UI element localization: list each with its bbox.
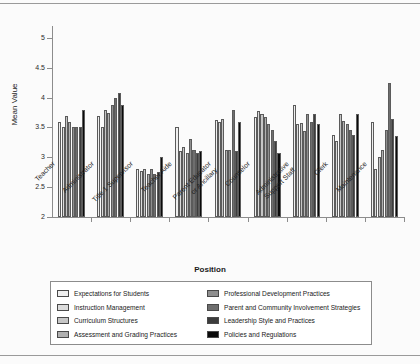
- legend-item: Curriculum Structures: [57, 314, 177, 327]
- legend-label: Instruction Management: [74, 304, 145, 311]
- legend-label: Assessment and Grading Practices: [74, 331, 177, 338]
- bar: [82, 110, 85, 217]
- y-tick: [47, 38, 52, 39]
- y-tick: [47, 187, 52, 188]
- y-tick: [47, 157, 52, 158]
- x-tick: [208, 217, 209, 222]
- legend-column-left: Expectations for StudentsInstruction Man…: [57, 287, 177, 341]
- top-divider: [0, 3, 420, 4]
- x-axis-title: Position: [0, 265, 420, 274]
- x-tick: [365, 217, 366, 222]
- y-tick-label: 4: [0, 94, 45, 102]
- legend-label: Professional Development Practices: [224, 290, 330, 297]
- bottom-divider: [0, 355, 420, 356]
- y-tick: [47, 127, 52, 128]
- legend-item: Expectations for Students: [57, 287, 177, 300]
- legend-swatch: [207, 290, 219, 297]
- legend-item: Instruction Management: [57, 301, 177, 314]
- legend-label: Parent and Community Involvement Strateg…: [224, 304, 360, 311]
- legend-swatch: [57, 317, 69, 324]
- legend-swatch: [207, 304, 219, 311]
- x-tick: [326, 217, 327, 222]
- legend-column-right: Professional Development PracticesParent…: [207, 287, 360, 341]
- y-tick: [47, 217, 52, 218]
- y-axis-line: [52, 26, 53, 218]
- legend-label: Leadership Style and Practices: [224, 317, 315, 324]
- y-tick-label: 5: [0, 34, 45, 42]
- legend-label: Expectations for Students: [74, 290, 149, 297]
- legend-swatch: [57, 290, 69, 297]
- y-tick: [47, 68, 52, 69]
- bar: [121, 105, 124, 217]
- legend-swatch: [57, 331, 69, 338]
- legend-item: Leadership Style and Practices: [207, 314, 360, 327]
- legend-swatch: [57, 304, 69, 311]
- x-tick: [287, 217, 288, 222]
- x-tick: [404, 217, 405, 222]
- y-tick-label-text: 3: [3, 153, 45, 161]
- legend-swatch: [207, 331, 219, 338]
- chart-screenshot: Mean Value 22.533.544.55 TeacherAdminist…: [0, 0, 420, 364]
- bar-group: [371, 26, 398, 217]
- legend: Expectations for StudentsInstruction Man…: [50, 281, 372, 345]
- plot-area: Mean Value 22.533.544.55 TeacherAdminist…: [0, 6, 420, 258]
- legend-label: Policies and Regulations: [224, 331, 296, 338]
- y-tick-label-text: 4.5: [3, 64, 45, 72]
- y-tick-label-text: 4: [3, 94, 45, 102]
- y-tick-label: 4.5: [0, 64, 45, 72]
- x-tick: [91, 217, 92, 222]
- y-tick-label: 3: [0, 153, 45, 161]
- y-tick-label-text: 5: [3, 34, 45, 42]
- bar: [395, 136, 398, 217]
- y-tick-label-text: 3.5: [3, 123, 45, 131]
- legend-item: Assessment and Grading Practices: [57, 328, 177, 341]
- legend-label: Curriculum Structures: [74, 317, 138, 324]
- legend-item: Policies and Regulations: [207, 328, 360, 341]
- y-tick: [47, 98, 52, 99]
- legend-item: Professional Development Practices: [207, 287, 360, 300]
- x-tick: [130, 217, 131, 222]
- y-tick-label: 3.5: [0, 123, 45, 131]
- legend-swatch: [207, 317, 219, 324]
- legend-item: Parent and Community Involvement Strateg…: [207, 301, 360, 314]
